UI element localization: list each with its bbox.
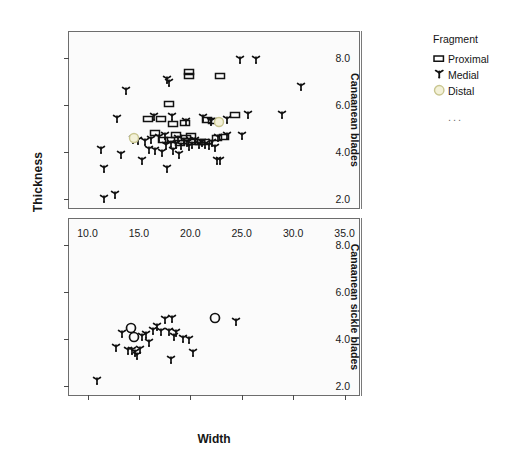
data-point-medial [164, 78, 174, 88]
legend-item-distal[interactable]: Distal [432, 83, 511, 98]
x-axis-tick-label: 15.0 [129, 227, 149, 239]
legend-overflow-ellipsis: ... [432, 111, 511, 123]
y-axis-tick [64, 339, 69, 340]
y-axis-title: Thickness [31, 122, 45, 242]
panel-canaanean-sickle-blades: 2.04.06.08.0 10.015.020.025.030.035.0 [68, 218, 360, 396]
data-point-medial [166, 355, 176, 365]
data-point-medial [112, 114, 122, 124]
scatter-plot-figure: Thickness Width 2.04.06.08.0 Canaanean b… [0, 0, 511, 459]
y-axis-tick-label: 4.0 [335, 333, 350, 345]
y-axis-tick-label: 4.0 [335, 146, 350, 158]
data-point-medial [137, 156, 147, 166]
data-point-medial [235, 55, 245, 65]
panel-label-canaanean-blades: Canaanean blades [349, 31, 361, 209]
x-axis-tick [88, 395, 89, 400]
data-point-medial [111, 343, 121, 353]
data-point-distal [213, 116, 225, 128]
data-point-medial [96, 145, 106, 155]
data-point-medial [99, 164, 109, 174]
data-point-medial [121, 86, 131, 96]
x-axis-tick [345, 395, 346, 400]
legend: Fragment ProximalMedialDistal ... [432, 33, 511, 123]
panel-canaanean-blades: 2.04.06.08.0 [68, 31, 360, 209]
x-axis-tick-label: 25.0 [232, 227, 252, 239]
data-point-medial [157, 148, 167, 158]
data-point-medial [296, 82, 306, 92]
data-point-medial [110, 190, 120, 200]
x-axis-tick-label: 10.0 [77, 227, 97, 239]
data-point-medial [222, 131, 232, 141]
y-axis-tick-label: 6.0 [335, 99, 350, 111]
y-axis-tick-label: 2.0 [335, 193, 350, 205]
data-point-medial [144, 338, 154, 348]
x-axis-title: Width [68, 432, 360, 446]
y-axis-tick [64, 199, 69, 200]
panel-label-canaanean-sickle-blades: Canaanean sickle blades [349, 218, 361, 396]
data-point-medial [116, 150, 126, 160]
data-point-medial [181, 117, 191, 127]
rectangle-outline-icon [432, 52, 446, 66]
plot-area-top [69, 32, 359, 208]
strip-divider-bottom [361, 218, 362, 396]
data-point-medial [167, 112, 177, 122]
x-axis-tick [293, 395, 294, 400]
data-point-medial [99, 194, 109, 204]
legend-item-label: Medial [448, 69, 479, 81]
plot-area-bottom [69, 219, 359, 395]
data-point-medial [210, 143, 220, 153]
legend-item-medial[interactable]: Medial [432, 67, 511, 82]
data-point-distal [128, 132, 140, 144]
x-axis-tick [242, 395, 243, 400]
data-point-distal [128, 331, 140, 343]
data-point-medial [188, 348, 198, 358]
strip-divider-top [361, 31, 362, 209]
data-point-distal [209, 312, 221, 324]
tri-spoke-icon [432, 68, 446, 82]
data-point-medial [277, 110, 287, 120]
legend-item-proximal[interactable]: Proximal [432, 51, 511, 66]
data-point-proximal [163, 100, 174, 107]
legend-title: Fragment [432, 33, 511, 45]
data-point-medial [92, 376, 102, 386]
data-point-medial [251, 55, 261, 65]
data-point-medial [237, 131, 247, 141]
y-axis-tick [64, 105, 69, 106]
y-axis-tick-label: 8.0 [335, 52, 350, 64]
data-point-proximal [215, 73, 226, 80]
x-axis-tick [190, 395, 191, 400]
y-axis-tick-label: 2.0 [335, 380, 350, 392]
data-point-medial [184, 335, 194, 345]
data-point-medial [174, 150, 184, 160]
y-axis-tick [64, 386, 69, 387]
y-axis-tick [64, 245, 69, 246]
legend-item-label: Distal [448, 85, 474, 97]
data-point-medial [149, 112, 159, 122]
legend-entries: ProximalMedialDistal [432, 51, 511, 98]
y-axis-tick [64, 58, 69, 59]
data-point-medial [215, 156, 225, 166]
circle-outline-icon [432, 84, 446, 98]
data-point-medial [162, 164, 172, 174]
x-axis-tick-label: 30.0 [283, 227, 303, 239]
y-axis-tick-label: 8.0 [335, 239, 350, 251]
y-axis-tick [64, 152, 69, 153]
data-point-medial [231, 317, 241, 327]
data-point-proximal [184, 73, 195, 80]
legend-item-label: Proximal [448, 53, 489, 65]
data-point-medial [243, 110, 253, 120]
data-point-medial [167, 314, 177, 324]
data-point-medial [146, 135, 156, 145]
x-axis-tick [139, 395, 140, 400]
x-axis-tick-label: 20.0 [180, 227, 200, 239]
y-axis-tick [64, 292, 69, 293]
y-axis-tick-label: 6.0 [335, 286, 350, 298]
